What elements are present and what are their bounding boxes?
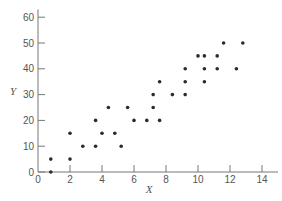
data-point: [94, 119, 98, 123]
data-point: [49, 170, 53, 174]
data-point: [132, 119, 136, 123]
axes: [38, 9, 278, 172]
data-point: [183, 67, 187, 71]
x-tick-label: 0: [35, 174, 41, 185]
data-point: [203, 67, 207, 71]
data-point: [49, 157, 53, 161]
y-tick-label: 10: [23, 141, 35, 152]
data-point: [171, 93, 175, 97]
x-tick-label: 10: [192, 174, 204, 185]
data-point: [241, 41, 245, 45]
data-point: [151, 93, 155, 97]
x-tick-label: 4: [99, 174, 105, 185]
data-point: [196, 54, 200, 58]
x-tick-label: 2: [67, 174, 73, 185]
y-tick-label: 50: [23, 38, 35, 49]
data-point: [68, 132, 72, 136]
x-tick-label: 14: [256, 174, 268, 185]
data-point: [235, 67, 239, 71]
x-axis-label: X: [145, 183, 154, 195]
x-axis-ticks: 02468101214: [35, 165, 268, 185]
data-point: [94, 144, 98, 148]
data-point: [126, 106, 130, 110]
data-point: [81, 144, 85, 148]
data-point: [151, 106, 155, 110]
data-point: [100, 132, 104, 136]
scatter-chart: 0102030405060 02468101214 X Y: [0, 0, 282, 201]
y-axis-label: Y: [10, 85, 18, 97]
y-axis-ticks: 0102030405060: [23, 12, 45, 178]
y-tick-label: 20: [23, 115, 35, 126]
data-point: [107, 106, 111, 110]
x-tick-label: 6: [131, 174, 137, 185]
y-tick-label: 40: [23, 63, 35, 74]
data-point: [203, 80, 207, 84]
data-point: [119, 144, 123, 148]
data-point: [158, 119, 162, 123]
data-point: [113, 132, 117, 136]
data-point: [215, 54, 219, 58]
data-point: [145, 119, 149, 123]
y-tick-label: 0: [28, 167, 34, 178]
data-point: [183, 93, 187, 97]
data-point: [203, 54, 207, 58]
data-point: [158, 80, 162, 84]
x-tick-label: 12: [224, 174, 236, 185]
data-point: [183, 80, 187, 84]
data-points: [49, 41, 245, 174]
data-point: [215, 67, 219, 71]
y-tick-label: 30: [23, 89, 35, 100]
data-point: [222, 41, 226, 45]
data-point: [68, 157, 72, 161]
x-tick-label: 8: [163, 174, 169, 185]
y-tick-label: 60: [23, 12, 35, 23]
